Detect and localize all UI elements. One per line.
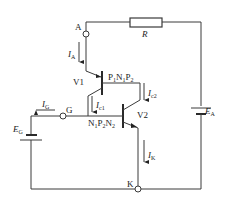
label-v1: V1 [73,77,84,87]
label-v2: V2 [137,110,148,120]
label-n1p2n2: N1P2N2 [88,118,115,129]
label-g: G [66,105,73,115]
label-r: R [141,29,148,39]
label-eg: EG [12,124,24,135]
bottom-wire [31,140,135,189]
battery-eg [20,135,42,140]
label-ig: IG [41,99,50,110]
circuit-svg: A G K R EA EG V1 V2 P1N1P2 N1P2N2 IA IG … [0,0,234,209]
label-ic2: Ic2 [147,88,157,99]
thyristor-circuit-diagram: A G K R EA EG V1 V2 P1N1P2 N1P2N2 IA IG … [0,0,234,209]
label-ia: IA [67,49,76,60]
anode-wire [86,37,101,77]
resistor [130,18,162,27]
label-a: A [75,22,82,32]
node-k [135,186,141,192]
battery-ea [191,108,211,189]
label-ic1: Ic1 [95,100,105,111]
label-ea: EA [204,106,216,117]
node-a [83,31,89,37]
label-p1n1p2: P1N1P2 [108,72,134,83]
label-k: K [127,179,134,189]
label-ik: IK [147,150,156,161]
